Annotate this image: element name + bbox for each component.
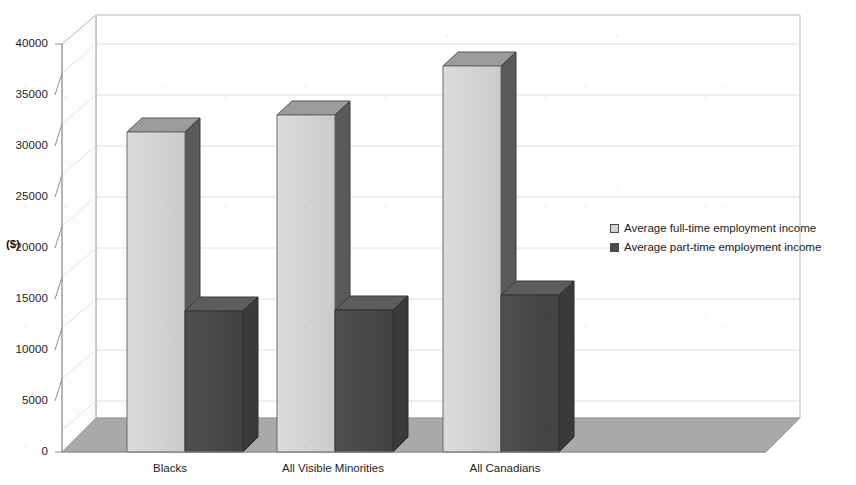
plot-left-wall <box>62 15 96 452</box>
legend-swatch-full-time-icon <box>610 224 619 233</box>
x-tick-label-blacks: Blacks <box>110 462 230 474</box>
y-axis-ticks <box>55 44 62 452</box>
x-tick-label-all-canadians: All Canadians <box>430 462 580 474</box>
bar-chart: ($) 40000 35000 30000 25000 20000 15000 … <box>0 0 856 485</box>
legend-label-part-time: Average part-time employment income <box>624 241 821 254</box>
y-tick-label-20000: 20000 <box>0 241 48 253</box>
y-tick-label-25000: 25000 <box>0 190 48 202</box>
y-tick-label-40000: 40000 <box>0 37 48 49</box>
bar-all-canadians-part-time <box>501 281 574 452</box>
legend-label-full-time: Average full-time employment income <box>624 222 816 235</box>
legend-swatch-part-time-icon <box>610 243 619 252</box>
y-tick-label-35000: 35000 <box>0 88 48 100</box>
y-tick-label-15000: 15000 <box>0 292 48 304</box>
legend-item-part-time: Average part-time employment income <box>610 238 844 257</box>
y-tick-label-10000: 10000 <box>0 343 48 355</box>
bar-blacks-part-time <box>185 297 258 452</box>
bar-all-visible-minorities-part-time <box>335 296 408 452</box>
y-tick-label-5000: 5000 <box>0 394 48 406</box>
chart-legend: Average full-time employment income Aver… <box>606 216 848 261</box>
legend-item-full-time: Average full-time employment income <box>610 219 844 238</box>
y-tick-label-30000: 30000 <box>0 139 48 151</box>
y-tick-label-0: 0 <box>0 445 48 457</box>
x-tick-label-all-visible-minorities: All Visible Minorities <box>243 462 423 474</box>
